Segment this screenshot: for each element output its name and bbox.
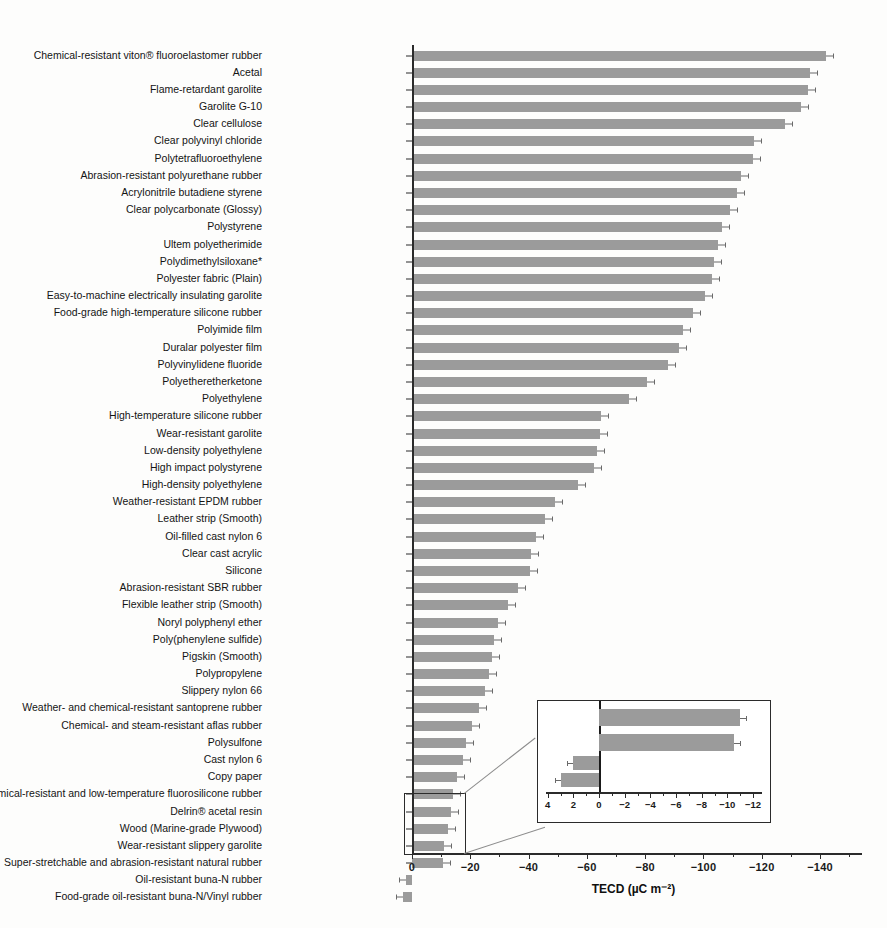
category-label: Cast nylon 6 — [204, 754, 262, 765]
category-label: Chemical-resistant viton® fluoroelastome… — [34, 50, 262, 61]
inset-x-axis-tick-label: −12 — [745, 799, 761, 810]
inset-x-axis-line — [546, 792, 762, 794]
category-label: Garolite G-10 — [199, 101, 262, 112]
x-axis-minor-tick — [441, 853, 442, 857]
inset-x-axis-minor-tick — [689, 793, 690, 796]
category-label: Food-grade high-temperature silicone rub… — [54, 308, 262, 319]
category-label: Ultem polyetherimide — [163, 239, 262, 250]
category-label: Clear cast acrylic — [182, 548, 262, 559]
category-label: High impact polystyrene — [150, 462, 262, 473]
category-label: Polyester fabric (Plain) — [156, 273, 262, 284]
category-label: Chemical- and steam-resistant aflas rubb… — [61, 720, 262, 731]
x-axis-tick-label: −80 — [636, 861, 655, 873]
x-axis-minor-tick — [558, 853, 559, 857]
category-label: Polydimethylsiloxane* — [160, 256, 262, 267]
x-axis-title-text: TECD (µC m⁻²) — [592, 882, 676, 896]
inset-x-axis-minor-tick — [638, 793, 639, 796]
inset-error-bar-cap — [567, 761, 568, 766]
inset-x-axis-tick-label: −2 — [619, 799, 630, 810]
x-axis-tick-label: −120 — [749, 861, 775, 873]
inset-x-axis-tick-label: 0 — [596, 799, 601, 810]
category-label: Acetal — [233, 67, 262, 78]
inset-x-axis-tick — [753, 793, 754, 798]
category-label: High-density polyethylene — [142, 479, 262, 490]
category-label: Weather-resistant EPDM rubber — [113, 497, 262, 508]
category-label: Wear-resistant slippery garolite — [117, 840, 262, 851]
x-axis-tick — [470, 853, 471, 859]
category-label: Silicone — [225, 565, 262, 576]
x-axis-minor-tick — [791, 853, 792, 857]
inset-x-axis-minor-tick — [612, 793, 613, 796]
x-axis-tick — [703, 853, 704, 859]
x-axis-tick-label: −60 — [577, 861, 596, 873]
category-label: Slippery nylon 66 — [181, 686, 262, 697]
x-axis-tick — [645, 853, 646, 859]
category-label: Polyetheretherketone — [162, 376, 262, 387]
inset-x-axis-minor-tick — [715, 793, 716, 796]
inset-x-axis-tick — [573, 793, 574, 798]
tecd-bar-chart-figure: Chemical-resistant viton® fluoroelastome… — [0, 0, 887, 928]
inset-error-bar-cap — [746, 716, 747, 721]
inset-bar — [599, 709, 740, 726]
inset-x-axis-tick-label: 2 — [571, 799, 576, 810]
category-label: Flexible leather strip (Smooth) — [122, 600, 262, 611]
inset-x-axis-minor-tick — [663, 793, 664, 796]
x-axis-tick — [762, 853, 763, 859]
category-label: Polyimide film — [197, 325, 262, 336]
inset-x-axis-tick — [599, 793, 600, 798]
x-axis-tick — [820, 853, 821, 859]
category-label: Chemical-resistant and low-temperature f… — [0, 789, 262, 800]
inset-bar — [599, 734, 734, 751]
inset-panel: 420−2−4−6−8−10−12 — [537, 700, 771, 823]
category-label: Delrin® acetal resin — [170, 806, 262, 817]
x-axis-title: TECD (µC m⁻²) — [0, 882, 887, 896]
x-axis-minor-tick — [674, 853, 675, 857]
category-label: Clear polycarbonate (Glossy) — [126, 204, 262, 215]
category-label: Polyethylene — [202, 393, 262, 404]
x-axis-tick-label: −20 — [461, 861, 480, 873]
category-label: Leather strip (Smooth) — [158, 514, 262, 525]
x-axis-minor-tick — [616, 853, 617, 857]
x-axis-line — [412, 853, 862, 855]
inset-x-axis-minor-tick — [586, 793, 587, 796]
x-axis-tick — [412, 853, 413, 859]
category-label: Duralar polyester film — [163, 342, 262, 353]
category-label: Polyvinylidene fluoride — [158, 359, 262, 370]
category-label: Clear cellulose — [193, 119, 262, 130]
x-axis-tick-label: −40 — [519, 861, 538, 873]
category-label: Pigskin (Smooth) — [182, 651, 262, 662]
inset-x-axis-minor-tick — [561, 793, 562, 796]
inset-error-bar-cap — [555, 778, 556, 783]
error-bar — [396, 897, 403, 898]
inset-error-bar-cap — [740, 741, 741, 746]
x-axis-minor-tick — [499, 853, 500, 857]
x-axis-minor-tick — [733, 853, 734, 857]
category-label: Abrasion-resistant SBR rubber — [120, 582, 262, 593]
inset-x-axis-tick — [702, 793, 703, 798]
inset-x-axis-tick-label: −6 — [671, 799, 682, 810]
category-label: Easy-to-machine electrically insulating … — [47, 290, 262, 301]
error-bar-cap — [450, 861, 451, 866]
category-label: Polysulfone — [208, 737, 262, 748]
bar — [412, 858, 443, 868]
category-label: Wood (Marine-grade Plywood) — [120, 823, 262, 834]
x-axis-tick — [529, 853, 530, 859]
inset-x-axis-tick-label: 4 — [545, 799, 550, 810]
inset-x-axis-tick — [650, 793, 651, 798]
x-axis-tick-label: 0 — [409, 861, 415, 873]
category-label: Acrylonitrile butadiene styrene — [121, 187, 262, 198]
error-bar — [443, 863, 450, 864]
inset-bar — [561, 773, 600, 787]
inset-x-axis-tick — [727, 793, 728, 798]
x-axis-minor-tick — [849, 853, 850, 857]
inset-x-axis-minor-tick — [740, 793, 741, 796]
inset-x-axis-tick — [548, 793, 549, 798]
category-label: Weather- and chemical-resistant santopre… — [22, 703, 262, 714]
inset-x-axis-tick — [625, 793, 626, 798]
x-axis-tick — [587, 853, 588, 859]
category-label: High-temperature silicone rubber — [109, 411, 262, 422]
inset-x-axis-tick-label: −8 — [696, 799, 707, 810]
category-label: Super-stretchable and abrasion-resistant… — [4, 857, 262, 868]
inset-x-axis-tick-label: −4 — [645, 799, 656, 810]
category-label: Polypropylene — [195, 668, 262, 679]
